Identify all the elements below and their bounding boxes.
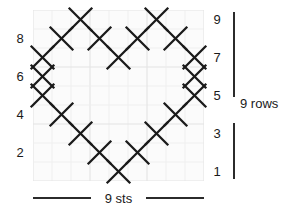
row-number-left: 4 [12,108,28,121]
stitches-count-label: 9 sts [91,192,146,205]
row-number-right: 9 [209,13,225,26]
rows-bracket-lower-segment [233,123,235,179]
stitch-chart-grid [33,10,204,181]
row-number-left: 8 [12,32,28,45]
row-number-right: 1 [209,165,225,178]
row-number-left: 2 [12,146,28,159]
stitches-rule-left-segment [33,197,91,199]
row-number-right: 7 [209,51,225,64]
chart-figure: 8 6 4 2 9 7 5 3 1 9 rows 9 sts [0,0,287,210]
rows-bracket [233,12,236,179]
row-number-left: 6 [12,70,28,83]
stitches-rule: 9 sts [33,192,204,204]
rows-count-label: 9 rows [240,97,278,110]
stitches-rule-right-segment [146,197,204,199]
stitch-symbol-layer [33,10,204,181]
row-number-right: 3 [209,127,225,140]
row-number-right: 5 [209,89,225,102]
rows-bracket-upper-segment [233,12,235,97]
